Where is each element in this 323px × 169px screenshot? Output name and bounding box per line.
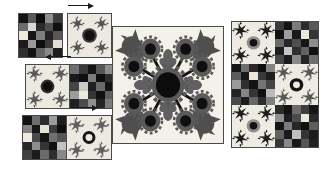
noise-cell-3-3: [96, 91, 105, 100]
noise-cell-0-0: [275, 22, 284, 30]
noise-cell-2-3: [301, 122, 310, 130]
noise-cell-1-2: [249, 72, 258, 80]
noise-cell-0-3: [49, 116, 58, 125]
noise-cell-1-4: [53, 23, 62, 32]
noise-grid-3: [22, 115, 67, 160]
arrow-right-1: [68, 2, 94, 9]
noise-cell-0-2: [292, 105, 301, 113]
noise-cell-4-3: [49, 150, 58, 159]
noise-cell-4-2: [292, 139, 301, 147]
noise-cell-3-3: [49, 142, 58, 151]
noise-cell-3-2: [292, 130, 301, 138]
noise-cell-2-0: [70, 82, 79, 91]
noise-cell-4-1: [32, 150, 41, 159]
noise-cell-3-3: [301, 47, 310, 55]
noise-cell-2-2: [88, 82, 97, 91]
noise-cell-1-0: [19, 23, 28, 32]
noise-cell-1-3: [96, 74, 105, 83]
noise-cell-4-3: [301, 139, 310, 147]
noise-cell-3-1: [28, 40, 37, 49]
noise-cell-3-3: [45, 40, 54, 49]
noise-cell-1-1: [284, 30, 293, 38]
quilt-block-2: [25, 64, 70, 109]
noise-cell-2-3: [258, 80, 267, 88]
noise-cell-3-2: [292, 47, 301, 55]
arrow-right-3: [72, 104, 98, 111]
tile-2-1: [275, 105, 318, 147]
noise-cell-2-0: [275, 39, 284, 47]
noise-cell-3-4: [53, 40, 62, 49]
noise-cell-1-2: [88, 74, 97, 83]
tiled-output-panel: [231, 21, 319, 148]
tile-0-0: [232, 22, 275, 64]
fern-rosette-motif: [232, 105, 275, 147]
noise-cell-1-0: [275, 114, 284, 122]
noise-cell-1-0: [232, 72, 241, 80]
noise-cell-3-4: [309, 47, 318, 55]
noise-cell-0-2: [292, 22, 301, 30]
noise-cell-2-1: [79, 82, 88, 91]
noise-cell-4-4: [57, 150, 66, 159]
noise-cell-1-3: [301, 30, 310, 38]
noise-cell-0-1: [284, 22, 293, 30]
quilt-block-1: [67, 13, 112, 58]
noise-cell-3-2: [249, 89, 258, 97]
noise-cell-3-0: [275, 47, 284, 55]
noise-cell-0-1: [284, 105, 293, 113]
noise-cell-1-4: [309, 30, 318, 38]
noise-cell-0-2: [249, 64, 258, 72]
noise-cell-3-0: [275, 130, 284, 138]
example-row-1: [18, 13, 112, 58]
noise-cell-2-4: [309, 122, 318, 130]
tile-0-1: [275, 22, 318, 64]
noise-cell-2-3: [301, 39, 310, 47]
noise-cell-2-3: [49, 133, 58, 142]
noise-cell-0-3: [258, 64, 267, 72]
noise-cell-4-2: [40, 150, 49, 159]
noise-cell-2-2: [292, 122, 301, 130]
noise-cell-1-0: [70, 74, 79, 83]
noise-cell-3-2: [88, 91, 97, 100]
noise-cell-0-1: [241, 64, 250, 72]
example-row-2: [25, 64, 115, 109]
noise-cell-3-4: [57, 142, 66, 151]
noise-cell-4-2: [249, 97, 258, 105]
noise-cell-1-1: [79, 74, 88, 83]
noise-cell-3-1: [79, 91, 88, 100]
noise-cell-1-4: [309, 114, 318, 122]
noise-cell-1-1: [32, 125, 41, 134]
noise-cell-0-0: [19, 14, 28, 23]
noise-cell-0-4: [53, 14, 62, 23]
noise-cell-3-0: [23, 142, 32, 151]
noise-cell-4-2: [292, 55, 301, 63]
noise-cell-1-3: [301, 114, 310, 122]
noise-cell-0-4: [309, 105, 318, 113]
tile-1-0: [232, 64, 275, 106]
noise-cell-1-1: [28, 23, 37, 32]
noise-cell-4-4: [309, 55, 318, 63]
noise-cell-0-0: [232, 64, 241, 72]
radial-floral-medallion: [113, 27, 223, 143]
noise-cell-3-2: [36, 40, 45, 49]
noise-cell-2-0: [232, 80, 241, 88]
noise-cell-2-2: [36, 31, 45, 40]
noise-cell-2-2: [40, 133, 49, 142]
noise-cell-3-4: [309, 130, 318, 138]
noise-cell-1-2: [292, 30, 301, 38]
noise-cell-4-4: [266, 97, 275, 105]
noise-cell-4-3: [258, 97, 267, 105]
noise-cell-4-0: [275, 139, 284, 147]
tile-2-0: [232, 105, 275, 147]
noise-cell-2-4: [57, 133, 66, 142]
noise-cell-4-1: [241, 97, 250, 105]
noise-cell-0-1: [32, 116, 41, 125]
noise-cell-2-1: [284, 39, 293, 47]
noise-cell-0-0: [23, 116, 32, 125]
noise-cell-3-1: [32, 142, 41, 151]
noise-cell-1-3: [258, 72, 267, 80]
noise-cell-0-1: [28, 14, 37, 23]
fern-rosette-motif: [26, 65, 69, 108]
noise-cell-2-4: [266, 80, 275, 88]
noise-cell-3-3: [301, 130, 310, 138]
noise-cell-0-1: [79, 65, 88, 74]
